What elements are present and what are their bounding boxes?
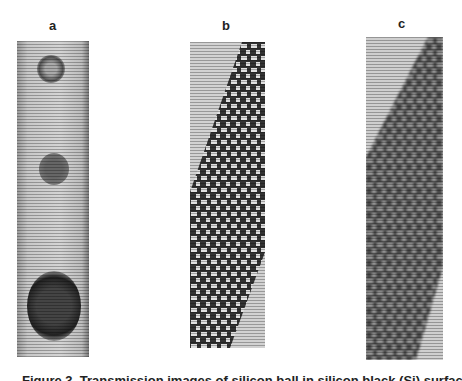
panel-c-image bbox=[366, 37, 443, 360]
lattice-pattern bbox=[190, 42, 265, 348]
figure-caption: Figure 3. Transmission images of silicon… bbox=[22, 368, 462, 381]
panel-b-label: b bbox=[222, 18, 230, 33]
panel-c-label: c bbox=[398, 16, 405, 31]
panel-a-label: a bbox=[49, 18, 56, 33]
lattice-pattern-blurred bbox=[366, 37, 443, 360]
spot-top bbox=[37, 55, 65, 83]
spot-bottom bbox=[27, 271, 81, 341]
panel-b-image bbox=[190, 42, 265, 348]
panel-a-image bbox=[17, 41, 89, 357]
spot-middle bbox=[39, 153, 69, 185]
